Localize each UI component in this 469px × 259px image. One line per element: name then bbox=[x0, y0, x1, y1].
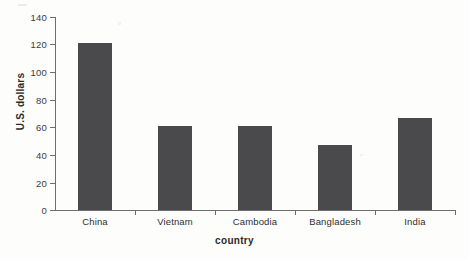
y-tick-label-120: 120 bbox=[11, 39, 47, 50]
y-tick-label-40: 40 bbox=[11, 150, 47, 161]
x-axis-tick bbox=[375, 210, 376, 215]
x-tick-label-bangladesh: Bangladesh bbox=[295, 216, 375, 227]
bar-cambodia[interactable] bbox=[238, 126, 272, 210]
x-axis-line bbox=[55, 210, 456, 211]
bars-container bbox=[55, 17, 456, 210]
bar-slot-india bbox=[375, 17, 455, 210]
bar-slot-cambodia bbox=[215, 17, 295, 210]
x-tick-label-vietnam: Vietnam bbox=[135, 216, 215, 227]
x-axis-tick bbox=[295, 210, 296, 215]
x-tick-label-cambodia: Cambodia bbox=[215, 216, 295, 227]
bar-india[interactable] bbox=[398, 118, 432, 210]
y-tick-label-0: 0 bbox=[11, 205, 47, 216]
bar-slot-bangladesh bbox=[295, 17, 375, 210]
x-axis-tick bbox=[215, 210, 216, 215]
bar-chart-screenshot: 140 120 100 80 60 40 20 0 bbox=[0, 0, 469, 259]
x-axis-tick bbox=[455, 210, 456, 215]
chart-plot-area: 140 120 100 80 60 40 20 0 bbox=[0, 0, 469, 259]
bar-china[interactable] bbox=[78, 43, 112, 210]
x-tick-label-china: China bbox=[55, 216, 135, 227]
y-tick-label-20: 20 bbox=[11, 178, 47, 189]
bar-slot-china bbox=[55, 17, 135, 210]
y-tick-label-140: 140 bbox=[11, 12, 47, 23]
bar-vietnam[interactable] bbox=[158, 126, 192, 210]
x-tick-label-india: India bbox=[375, 216, 455, 227]
bar-slot-vietnam bbox=[135, 17, 215, 210]
x-axis-title: country bbox=[0, 235, 469, 246]
y-axis-title: U.S. dollars bbox=[15, 57, 26, 147]
x-axis-tick bbox=[135, 210, 136, 215]
bar-bangladesh[interactable] bbox=[318, 145, 352, 210]
